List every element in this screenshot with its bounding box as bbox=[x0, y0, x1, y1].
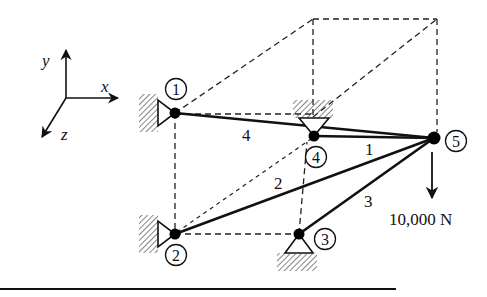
support-node-3 bbox=[277, 234, 317, 271]
dashed-diagonal bbox=[177, 139, 311, 232]
node-label-2: 2 bbox=[172, 247, 180, 264]
member-label-3: 3 bbox=[364, 192, 373, 211]
y-axis-label: y bbox=[40, 51, 50, 70]
node-label-1: 1 bbox=[172, 81, 180, 98]
member-label-2: 2 bbox=[274, 174, 283, 193]
node-label-4: 4 bbox=[312, 149, 320, 166]
load-label: 10,000 N bbox=[389, 210, 452, 229]
member-label-4: 4 bbox=[242, 126, 251, 145]
coordinate-axes: y x z bbox=[40, 50, 118, 144]
node-4 bbox=[309, 131, 320, 142]
node-label-3: 3 bbox=[321, 231, 329, 248]
z-axis-label: z bbox=[60, 125, 68, 144]
member-label-1: 1 bbox=[365, 140, 374, 159]
x-axis-label: x bbox=[100, 77, 109, 96]
node-1 bbox=[170, 108, 181, 119]
node-3 bbox=[294, 229, 305, 240]
node-2 bbox=[170, 229, 181, 240]
node-5 bbox=[428, 132, 441, 145]
truss-diagram: y x z 4 1 2 3 bbox=[0, 0, 487, 297]
node-label-5: 5 bbox=[452, 133, 460, 150]
